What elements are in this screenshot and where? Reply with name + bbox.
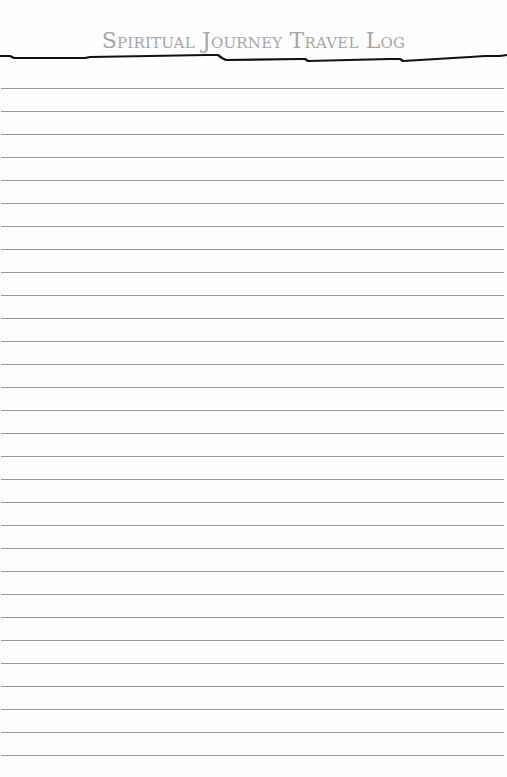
writing-line <box>1 249 504 250</box>
writing-line <box>1 88 504 89</box>
writing-line <box>1 134 504 135</box>
writing-line <box>1 341 504 342</box>
writing-line <box>1 295 504 296</box>
writing-line <box>1 502 504 503</box>
writing-line <box>1 410 504 411</box>
writing-line <box>1 479 504 480</box>
writing-line <box>1 318 504 319</box>
ruled-lines <box>0 0 507 777</box>
writing-line <box>1 548 504 549</box>
writing-line <box>1 456 504 457</box>
writing-line <box>1 755 504 756</box>
writing-line <box>1 203 504 204</box>
writing-line <box>1 617 504 618</box>
writing-line <box>1 686 504 687</box>
writing-line <box>1 663 504 664</box>
log-page: Spiritual Journey Travel Log <box>0 0 507 777</box>
writing-line <box>1 180 504 181</box>
writing-line <box>1 732 504 733</box>
writing-line <box>1 272 504 273</box>
writing-line <box>1 226 504 227</box>
writing-line <box>1 387 504 388</box>
writing-line <box>1 571 504 572</box>
writing-line <box>1 709 504 710</box>
writing-line <box>1 433 504 434</box>
writing-line <box>1 157 504 158</box>
writing-line <box>1 111 504 112</box>
writing-line <box>1 594 504 595</box>
writing-line <box>1 525 504 526</box>
writing-line <box>1 640 504 641</box>
writing-line <box>1 364 504 365</box>
